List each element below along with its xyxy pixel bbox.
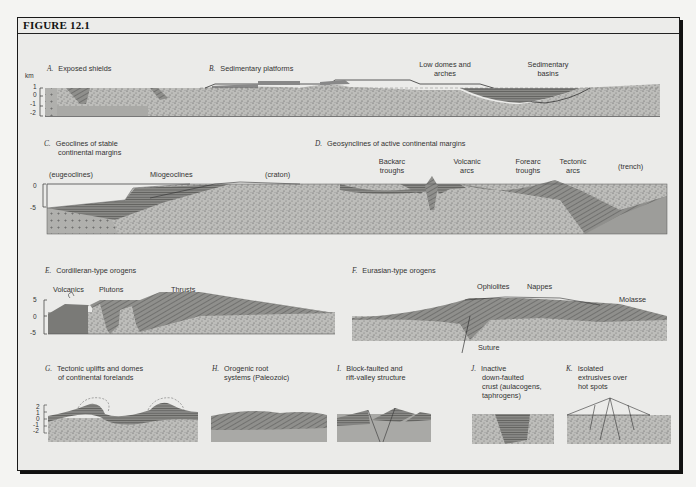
label-volcanics: Volcanics: [53, 285, 84, 294]
section-g: [44, 398, 198, 442]
section-f: [352, 297, 667, 353]
panel-a-title: A.Exposed shields: [47, 64, 111, 73]
label-tectonic-arcs: Tectonicarcs: [548, 157, 598, 175]
label-thrusts: Thrusts: [171, 285, 195, 294]
section-i: [337, 408, 431, 442]
section-c-d: [43, 176, 667, 234]
panel-c-tick: 0: [33, 182, 37, 189]
label-molasse: Molasse: [619, 295, 646, 304]
label-trench: (trench): [618, 162, 643, 171]
panel-h-title: H.Orogenic rootsystems (Paleozoic): [212, 364, 289, 382]
panel-a-tick: -2: [30, 109, 36, 116]
label-sedimentary-basins: Sedimentarybasins: [518, 60, 578, 78]
label-forearc-troughs: Forearctroughs: [503, 157, 553, 175]
unit-label-km: km: [25, 72, 34, 79]
cross-sections: +: [0, 0, 696, 487]
panel-g-title: G.Tectonic uplifts and domesof continent…: [45, 364, 143, 382]
panel-c-tick: -5: [30, 204, 36, 211]
label-suture: Suture: [478, 343, 500, 352]
section-k: [567, 398, 671, 444]
panel-e-tick: -5: [30, 329, 36, 336]
panel-g-tick: -2: [33, 427, 39, 434]
panel-d-title: D.Geosynclines of active continental mar…: [315, 139, 465, 148]
panel-k-title: K.Isolatedextrusives overhot spots: [566, 364, 627, 391]
label-nappes: Nappes: [527, 282, 552, 291]
panel-c-title: C.Geoclines of stablecontinental margins: [44, 139, 121, 157]
panel-e-tick: 5: [33, 296, 37, 303]
label-volcanic-arcs: Volcanicarcs: [442, 157, 492, 175]
section-e: [44, 292, 335, 334]
section-j: [472, 414, 554, 444]
panel-j-title: J.Inactivedown-faultedcrust (aulacogens,…: [471, 364, 542, 400]
label-craton: (craton): [265, 170, 290, 179]
panel-e-title: E.Cordilleran-type orogens: [45, 266, 136, 275]
label-backarc-troughs: Backarctroughs: [367, 157, 417, 175]
label-miogeoclines: Miogeoclines: [150, 170, 193, 179]
panel-a-tick: 0: [33, 91, 37, 98]
panel-a-tick: 1: [33, 83, 37, 90]
label-low-domes: Low domes andarches: [410, 60, 480, 78]
panel-e-tick: 0: [33, 313, 37, 320]
panel-a-tick: -1: [30, 100, 36, 107]
label-eugeoclines: (eugeoclines): [49, 170, 93, 179]
panel-b-title: B.Sedimentary platforms: [209, 64, 293, 73]
section-h: [211, 411, 327, 442]
label-plutons: Plutons: [99, 285, 123, 294]
section-a-b: [40, 80, 660, 117]
panel-i-title: I.Block-faulted andrift-valley structure: [337, 364, 406, 382]
label-ophiolites: Ophiolites: [477, 282, 509, 291]
panel-f-title: F.Eurasian-type orogens: [352, 266, 436, 275]
